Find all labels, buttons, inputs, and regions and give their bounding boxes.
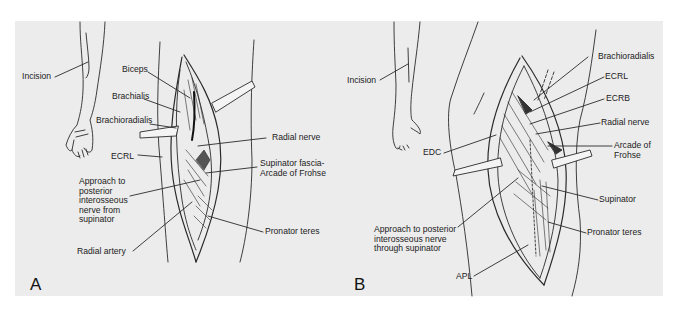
- label-b-edc: EDC: [423, 148, 441, 158]
- label-a-supinator-fascia: Supinator fascia- Arcade of Frohse: [260, 159, 326, 178]
- panel-letter-b: B: [354, 275, 365, 295]
- label-b-incision: Incision: [347, 76, 376, 86]
- label-b-ecrb: ECRB: [606, 94, 630, 104]
- label-a-approach: Approach to posterior interosseous nerve…: [79, 177, 128, 225]
- label-b-ecrl: ECRL: [605, 72, 628, 82]
- panel-letter-a: A: [30, 275, 41, 295]
- label-a-brachialis: Brachialis: [112, 92, 149, 102]
- surgical-illustration: [0, 0, 682, 311]
- label-b-supinator: Supinator: [599, 195, 636, 205]
- label-a-pronator-teres: Pronator teres: [265, 227, 319, 237]
- label-a-ecrl: ECRL: [111, 152, 134, 162]
- arm-sketch-a: [66, 22, 105, 158]
- label-a-biceps: Biceps: [122, 65, 148, 75]
- label-a-incision: Incision: [22, 72, 51, 82]
- label-b-brachioradialis: Brachioradialis: [598, 52, 654, 62]
- label-b-radial-nerve: Radial nerve: [601, 118, 649, 128]
- label-b-approach: Approach to posterior interosseous nerve…: [374, 225, 456, 254]
- label-b-pronator-teres: Pronator teres: [587, 228, 641, 238]
- label-b-apl: APL: [456, 272, 472, 282]
- label-a-brachioradialis: Brachioradialis: [96, 116, 152, 126]
- label-a-radial-nerve: Radial nerve: [272, 133, 320, 143]
- arm-sketch-b: [393, 22, 421, 150]
- label-a-radial-artery: Radial artery: [77, 247, 126, 257]
- label-b-arcade-of-frohse: Arcade of Frohse: [614, 141, 651, 160]
